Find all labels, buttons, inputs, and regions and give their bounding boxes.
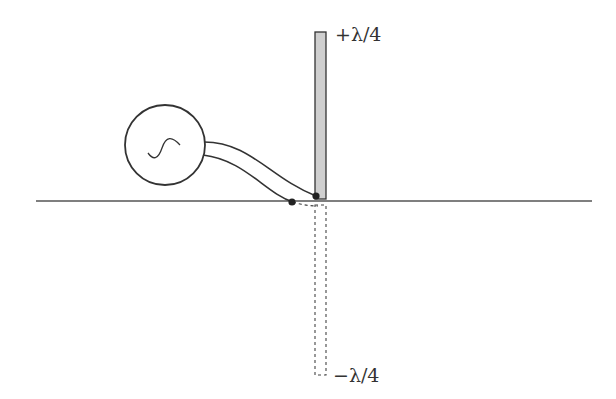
label-minus-quarter-wave: −λ/4 (333, 364, 379, 386)
image-feed-dashed (293, 202, 318, 206)
monopole-antenna (315, 32, 326, 199)
feed-point-ground (288, 198, 295, 205)
feed-line-lower (203, 155, 293, 202)
label-plus-quarter-wave: +λ/4 (335, 23, 381, 45)
feed-point-antenna (312, 192, 319, 199)
feed-line-upper (204, 142, 316, 196)
image-monopole (315, 205, 326, 375)
diagram-canvas (0, 0, 616, 399)
signal-source-icon (125, 105, 205, 185)
